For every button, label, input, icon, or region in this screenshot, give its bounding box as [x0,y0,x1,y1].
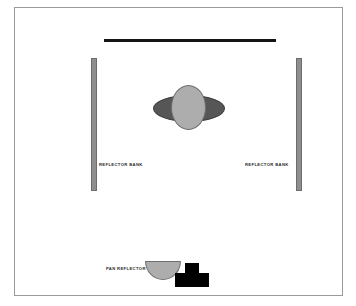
diagram-canvas: REFLECTOR BANK REFLECTOR BANK PAN REFLEC… [0,0,356,306]
camera-body [185,263,199,273]
camera-on-tripod-icon [175,263,209,287]
overhead-light-bar [104,39,276,42]
reflector-bank-left-label: REFLECTOR BANK [99,163,143,167]
camera-base [175,273,209,287]
subject-head-ellipse [171,85,206,130]
reflector-bank-right [296,58,302,191]
studio-floor-plan-frame: REFLECTOR BANK REFLECTOR BANK PAN REFLEC… [14,7,343,296]
reflector-bank-right-label: REFLECTOR BANK [245,163,289,167]
reflector-bank-left [91,58,97,191]
pan-reflector-label: PAN REFLECTOR [106,267,146,271]
